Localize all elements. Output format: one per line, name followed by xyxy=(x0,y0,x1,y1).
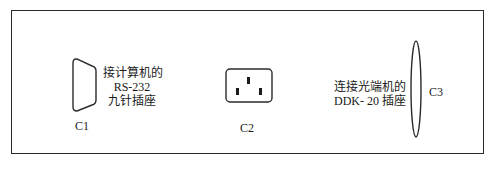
c1-label: C1 xyxy=(75,119,89,133)
c2-power-socket-icon xyxy=(226,69,272,102)
c3-description: 连接光端机的 DDK- 20 插座 xyxy=(334,80,406,108)
c1-dsub-connector-icon xyxy=(73,59,96,111)
c1-description-line-2: RS-232 xyxy=(103,80,161,94)
c1-description-line-1: 接计算机的 xyxy=(103,66,161,80)
c3-label: C3 xyxy=(429,85,443,99)
c3-description-line-1: 连接光端机的 xyxy=(334,80,406,94)
connector-shapes xyxy=(0,0,493,170)
c1-description: 接计算机的 RS-232 九针插座 xyxy=(103,66,161,108)
c1-description-line-3: 九针插座 xyxy=(103,94,161,108)
c3-port-icon xyxy=(411,41,421,137)
c2-label: C2 xyxy=(240,121,254,135)
c3-description-line-2: DDK- 20 插座 xyxy=(334,94,406,108)
